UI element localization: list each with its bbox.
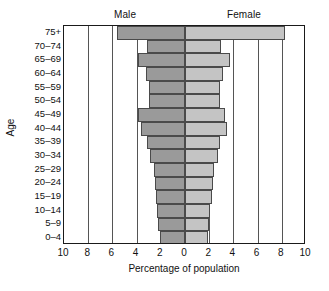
- bar-row: [64, 122, 304, 136]
- y-axis-tick-labels: 0–45–910–1415–1920–2425–2930–3435–3940–4…: [0, 25, 61, 244]
- bar-row: [64, 67, 304, 81]
- y-axis-tick-label: 40–44: [3, 123, 61, 133]
- x-axis-title: Percentage of population: [63, 263, 305, 274]
- y-axis-tick-label: 45–49: [3, 109, 61, 119]
- bar-row: [64, 108, 304, 122]
- x-axis-tick-label: 4: [230, 247, 236, 258]
- bar-male: [138, 53, 185, 67]
- population-pyramid-chart: Male Female Age 0–45–910–1415–1920–2425–…: [0, 0, 329, 291]
- male-column-header: Male: [114, 9, 136, 20]
- y-axis-tick-label: 60–64: [3, 68, 61, 78]
- bar-row: [64, 190, 304, 204]
- y-axis-tick-label: 10–14: [3, 205, 61, 215]
- bar-male: [158, 218, 185, 232]
- y-axis-tick-label: 35–39: [3, 136, 61, 146]
- bar-male: [146, 67, 185, 81]
- x-axis-tick-label: 2: [205, 247, 211, 258]
- bar-male: [141, 122, 185, 136]
- bar-female: [185, 67, 223, 81]
- y-axis-tick-label: 70–74: [3, 41, 61, 51]
- bar-row: [64, 231, 304, 244]
- bar-female: [185, 94, 220, 108]
- bar-female: [185, 149, 218, 163]
- x-axis-tick-label: 8: [278, 247, 284, 258]
- bar-row: [64, 163, 304, 177]
- bar-male: [149, 94, 185, 108]
- bar-female: [185, 108, 225, 122]
- x-axis-tick-label: 6: [109, 247, 115, 258]
- bar-female: [185, 81, 220, 95]
- x-axis-tick-label: 4: [133, 247, 139, 258]
- bar-row: [64, 40, 304, 54]
- bar-row: [64, 177, 304, 191]
- bar-male: [155, 177, 185, 191]
- y-axis-tick-label: 0–4: [3, 232, 61, 242]
- y-axis-tick-label: 30–34: [3, 150, 61, 160]
- bar-row: [64, 26, 304, 40]
- bar-male: [154, 163, 185, 177]
- female-column-header: Female: [227, 9, 261, 20]
- bar-female: [185, 204, 210, 218]
- y-axis-tick-label: 5–9: [3, 218, 61, 228]
- x-axis-tick-label: 10: [57, 247, 68, 258]
- bar-male: [147, 40, 185, 54]
- bar-male: [160, 231, 185, 244]
- x-axis-tick-label: 2: [157, 247, 163, 258]
- x-axis-tick-label: 10: [299, 247, 310, 258]
- y-axis-tick-label: 55–59: [3, 82, 61, 92]
- x-axis-tick-label: 8: [84, 247, 90, 258]
- bar-female: [185, 53, 230, 67]
- y-axis-tick-label: 25–29: [3, 164, 61, 174]
- bar-female: [185, 136, 220, 150]
- x-axis-tick-labels: 1086420246810: [0, 247, 329, 261]
- bar-male: [150, 149, 185, 163]
- bar-male: [138, 108, 185, 122]
- bar-row: [64, 218, 304, 232]
- bar-female: [185, 177, 213, 191]
- x-axis-tick-label: 0: [181, 247, 187, 258]
- bar-female: [185, 231, 208, 244]
- bar-row: [64, 53, 304, 67]
- bars-layer: [64, 26, 304, 243]
- bar-female: [185, 163, 214, 177]
- bar-female: [185, 122, 227, 136]
- y-axis-tick-label: 15–19: [3, 191, 61, 201]
- y-axis-tick-label: 65–69: [3, 54, 61, 64]
- bar-female: [185, 40, 221, 54]
- y-axis-tick-label: 75+: [3, 27, 61, 37]
- bar-male: [156, 190, 185, 204]
- bar-female: [185, 190, 212, 204]
- bar-male: [117, 26, 185, 40]
- bar-female: [185, 26, 285, 40]
- x-axis-tick-label: 6: [254, 247, 260, 258]
- bar-row: [64, 136, 304, 150]
- y-axis-tick-label: 20–24: [3, 177, 61, 187]
- bar-row: [64, 204, 304, 218]
- bar-male: [157, 204, 185, 218]
- bar-female: [185, 218, 209, 232]
- bar-row: [64, 94, 304, 108]
- bar-row: [64, 81, 304, 95]
- bar-male: [147, 136, 185, 150]
- plot-area: [63, 25, 305, 244]
- bar-row: [64, 149, 304, 163]
- bar-male: [149, 81, 185, 95]
- y-axis-tick-label: 50–54: [3, 95, 61, 105]
